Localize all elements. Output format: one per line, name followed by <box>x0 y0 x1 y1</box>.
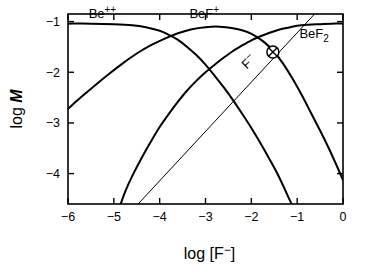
y-tick-label: −4 <box>46 167 60 181</box>
series-curve <box>68 24 292 204</box>
series-curve <box>68 27 343 181</box>
series-label: BeF+ <box>189 4 219 21</box>
plot-frame <box>68 14 343 204</box>
x-tick-label: −6 <box>61 210 75 224</box>
x-tick-label: −4 <box>153 210 167 224</box>
curves-group <box>68 14 343 204</box>
series-label: Be++ <box>89 4 117 21</box>
x-tick-label: −5 <box>107 210 121 224</box>
series-curve <box>138 14 314 204</box>
speciation-diagram: −6−5−4−3−2−10−1−2−3−4Be++BeF+BeF2F−log [… <box>0 0 366 274</box>
x-axis-title: log [F−] <box>184 243 235 262</box>
x-tick-label: −2 <box>244 210 258 224</box>
y-tick-label: −3 <box>46 116 60 130</box>
y-tick-label: −2 <box>46 66 60 80</box>
y-axis-title: log M <box>8 89 25 129</box>
x-tick-label: −1 <box>290 210 304 224</box>
series-curve <box>121 24 343 204</box>
x-tick-label: 0 <box>340 210 347 224</box>
y-tick-label: −1 <box>46 15 60 29</box>
series-label: F− <box>237 50 259 72</box>
circled-x-marker <box>267 46 279 58</box>
chart-figure: −6−5−4−3−2−10−1−2−3−4Be++BeF+BeF2F−log [… <box>0 0 366 274</box>
x-tick-label: −3 <box>198 210 212 224</box>
series-label: BeF2 <box>299 26 329 44</box>
